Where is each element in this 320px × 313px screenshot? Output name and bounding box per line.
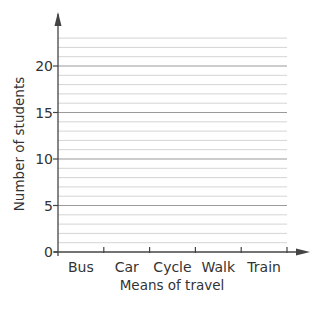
y-axis-ticks: 05101520 (35, 58, 58, 260)
y-axis-title: Number of students (11, 77, 27, 211)
x-axis-ticks: BusCarCycleWalkTrain (68, 247, 287, 275)
y-tick-label: 10 (35, 151, 53, 167)
bar-chart: 05101520 BusCarCycleWalkTrain Means of t… (0, 0, 320, 313)
y-tick-label: 20 (35, 58, 53, 74)
x-category-label-walk: Walk (202, 259, 236, 275)
x-axis-title: Means of travel (120, 277, 225, 293)
y-axis-arrow-icon (55, 12, 62, 26)
x-axis-arrow-icon (296, 249, 310, 256)
x-category-label-bus: Bus (68, 259, 94, 275)
axes (54, 12, 310, 256)
y-tick-label: 0 (44, 244, 53, 260)
y-tick-label: 15 (35, 105, 53, 121)
y-tick-label: 5 (44, 198, 53, 214)
grid-lines (58, 38, 287, 243)
x-category-label-car: Car (115, 259, 139, 275)
x-category-label-train: Train (246, 259, 281, 275)
x-category-label-cycle: Cycle (153, 259, 191, 275)
